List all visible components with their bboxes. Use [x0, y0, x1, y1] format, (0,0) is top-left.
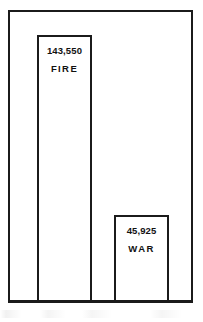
bar-chart: 143,550 FIRE 45,925 WAR: [0, 0, 203, 322]
war-bar-value-label: 45,925: [116, 226, 167, 236]
plot-frame: 143,550 FIRE 45,925 WAR: [8, 10, 193, 303]
scan-artifact: [0, 310, 203, 318]
war-bar-category-label: WAR: [116, 244, 167, 254]
fire-bar-value-label: 143,550: [39, 46, 90, 56]
fire-bar-category-label: FIRE: [39, 64, 90, 74]
war-bar[interactable]: 45,925 WAR: [114, 215, 169, 300]
fire-bar[interactable]: 143,550 FIRE: [37, 35, 92, 300]
